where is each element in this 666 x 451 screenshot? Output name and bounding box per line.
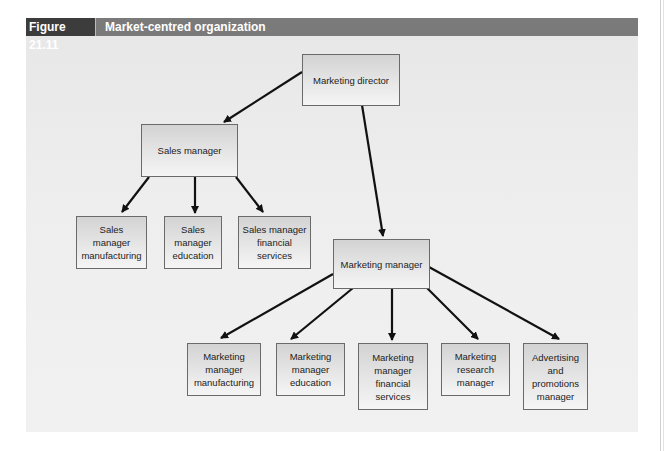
arrow-marketing-to-manufacturing xyxy=(221,274,333,338)
arrow-sales-to-manufacturing xyxy=(122,177,149,212)
node-sales-manager: Sales manager xyxy=(141,124,238,177)
node-marketing-manager-education: Marketing manager education xyxy=(276,343,345,396)
arrow-director-to-marketing xyxy=(362,105,383,236)
node-sales-manager-manufacturing: Sales manager manufacturing xyxy=(76,216,147,269)
page-margin-rule-secondary xyxy=(663,0,664,451)
arrow-marketing-to-research xyxy=(427,288,478,339)
arrow-marketing-to-advertising xyxy=(429,267,559,339)
node-sales-manager-financial-services: Sales manager financial services xyxy=(238,216,311,269)
node-marketing-manager-manufacturing: Marketing manager manufacturing xyxy=(187,343,261,396)
page-margin-rule xyxy=(660,0,661,451)
node-marketing-director: Marketing director xyxy=(302,54,400,106)
node-sales-manager-education: Sales manager education xyxy=(164,216,222,269)
node-marketing-manager-financial-services: Marketing manager financial services xyxy=(358,343,428,410)
org-chart-figure: Figure 21.11 Market-centred organization xyxy=(26,18,638,432)
node-advertising-promotions-manager: Advertising and promotions manager xyxy=(523,343,588,410)
arrow-director-to-sales xyxy=(224,72,302,122)
arrow-marketing-to-education xyxy=(291,288,353,339)
arrow-sales-to-financial xyxy=(236,177,263,212)
node-marketing-research-manager: Marketing research manager xyxy=(441,343,510,396)
node-marketing-manager: Marketing manager xyxy=(333,239,430,289)
